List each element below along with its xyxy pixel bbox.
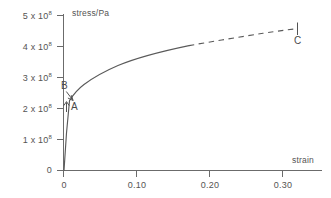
stress-strain-chart: 5 x 108 4 x 108 3 x 108 2 x 108 1 x 108 … [0, 0, 331, 198]
y-tick-exponent-3: 8 [48, 72, 52, 78]
y-tick-exponent-2: 8 [48, 103, 52, 109]
x-tick-label-2: 0.20 [193, 180, 227, 190]
y-axis-title: stress/Pa [72, 8, 109, 18]
x-tick-label-1: 0.10 [120, 180, 154, 190]
x-tick-label-0: 0 [48, 180, 80, 190]
y-tick-label-2: 2 x 108 [4, 103, 52, 114]
y-tick-exponent-1: 8 [48, 134, 52, 140]
y-tick-label-3: 3 x 108 [4, 72, 52, 83]
y-tick-label-4: 4 x 108 [4, 41, 52, 52]
x-axis-title: strain [292, 155, 314, 165]
annotation-label-c: C [294, 35, 301, 46]
curve-plastic-region [70, 46, 190, 101]
annotation-arrows [64, 23, 298, 113]
annotation-label-a: A [71, 101, 78, 112]
x-axis-ticks [64, 171, 283, 178]
axes [64, 14, 323, 171]
y-tick-label-1: 1 x 108 [4, 134, 52, 145]
annotation-label-b: B [61, 80, 68, 91]
y-tick-label-0: 0 [4, 165, 52, 175]
y-tick-exponent-5: 8 [48, 10, 52, 16]
y-tick-exponent-4: 8 [48, 41, 52, 47]
y-tick-label-5: 5 x 108 [4, 10, 52, 21]
curve-extrapolated-region [189, 29, 297, 46]
x-tick-label-3: 0.30 [266, 180, 300, 190]
y-axis-ticks [57, 16, 64, 171]
